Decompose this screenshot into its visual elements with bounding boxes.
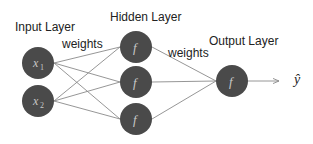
- hidden-node-3: f: [120, 103, 152, 135]
- input-node-x1: x 1: [22, 47, 54, 79]
- svg-text:x: x: [32, 56, 39, 70]
- hidden-node-2: f: [120, 66, 152, 98]
- hidden-node-1: f: [120, 31, 152, 63]
- input-layer-label: Input Layer: [15, 21, 75, 33]
- output-layer-label: Output Layer: [209, 35, 278, 47]
- neural-network-diagram: x 1 x 2 f f f f Input Layer Hidden Layer…: [0, 0, 313, 144]
- output-symbol-y-hat: ŷ: [294, 73, 300, 87]
- svg-text:2: 2: [40, 101, 44, 110]
- svg-text:x: x: [32, 94, 39, 108]
- output-node: f: [216, 65, 248, 97]
- weights-label-hidden-output: weights: [168, 47, 209, 59]
- svg-text:1: 1: [40, 63, 44, 72]
- input-hidden-edges: [54, 47, 120, 119]
- hidden-layer-label: Hidden Layer: [110, 11, 181, 23]
- input-node-x2: x 2: [22, 85, 54, 117]
- weights-label-input-hidden: weights: [62, 38, 103, 50]
